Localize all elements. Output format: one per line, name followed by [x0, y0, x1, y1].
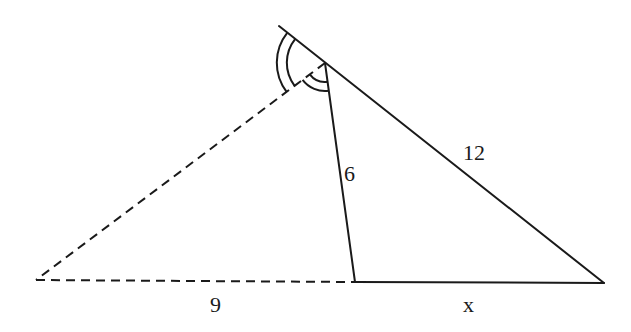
label-x: x	[463, 292, 474, 317]
geometry-diagram: 12 6 9 x	[0, 0, 631, 332]
side-12-line	[279, 26, 604, 283]
label-6: 6	[344, 161, 355, 186]
base-x-line	[355, 282, 604, 283]
dashed-side-line	[36, 63, 325, 280]
base-9-dashed-line	[36, 280, 355, 282]
label-9: 9	[210, 292, 221, 317]
outer-angle-mark	[277, 33, 295, 92]
label-12: 12	[463, 140, 485, 165]
